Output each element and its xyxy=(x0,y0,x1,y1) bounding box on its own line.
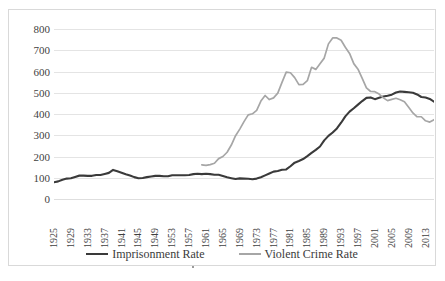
y-tick-label-700: 700 xyxy=(8,45,50,56)
x-tick-label-1969: 1969 xyxy=(235,228,245,248)
legend-swatch-icon xyxy=(86,253,108,255)
x-tick-label-1937: 1937 xyxy=(100,228,110,248)
x-tick-label-2013: 2013 xyxy=(421,228,431,248)
x-tick-label-1989: 1989 xyxy=(319,228,329,248)
x-tick-label-1929: 1929 xyxy=(66,228,76,248)
legend-label: Imprisonment Rate xyxy=(112,248,204,260)
y-tick-label-800: 800 xyxy=(8,24,50,35)
x-tick-label-1977: 1977 xyxy=(269,228,279,248)
x-tick-label-1965: 1965 xyxy=(218,228,228,248)
chart-container: 8007006005004003002001000 19251929193319… xyxy=(8,9,436,266)
y-tick-label-400: 400 xyxy=(8,109,50,120)
y-tick-label-200: 200 xyxy=(8,152,50,163)
series-lines xyxy=(54,29,434,199)
y-tick-label-100: 100 xyxy=(8,173,50,184)
gridline-0 xyxy=(54,199,434,200)
legend-item-1[interactable]: Violent Crime Rate xyxy=(239,248,358,260)
x-tick-label-2009: 2009 xyxy=(404,228,414,248)
y-tick-label-0: 0 xyxy=(8,194,50,205)
x-axis: 1925192919331937194119451949195319571961… xyxy=(54,202,434,248)
chart-legend: Imprisonment RateViolent Crime Rate xyxy=(9,248,435,260)
x-tick-label-1973: 1973 xyxy=(252,228,262,248)
x-tick-label-1949: 1949 xyxy=(150,228,160,248)
y-tick-label-300: 300 xyxy=(8,130,50,141)
x-tick-label-1993: 1993 xyxy=(336,228,346,248)
y-axis: 8007006005004003002001000 xyxy=(9,29,50,199)
plot-area xyxy=(54,29,434,199)
stray-mark xyxy=(192,266,194,268)
x-tick-label-1933: 1933 xyxy=(83,228,93,248)
legend-label: Violent Crime Rate xyxy=(265,248,358,260)
y-tick-label-600: 600 xyxy=(8,67,50,78)
x-tick-label-2001: 2001 xyxy=(370,228,380,248)
x-tick-label-1961: 1961 xyxy=(201,228,211,248)
y-tick-label-500: 500 xyxy=(8,88,50,99)
x-tick-label-2005: 2005 xyxy=(387,228,397,248)
series-line-violent-crime-rate xyxy=(202,38,434,165)
x-tick-label-1941: 1941 xyxy=(117,228,127,248)
series-line-imprisonment-rate xyxy=(54,91,434,182)
legend-swatch-icon xyxy=(239,253,261,255)
legend-item-0[interactable]: Imprisonment Rate xyxy=(86,248,204,260)
x-tick-label-1945: 1945 xyxy=(133,228,143,248)
x-tick-label-1997: 1997 xyxy=(353,228,363,248)
x-tick-label-1981: 1981 xyxy=(285,228,295,248)
x-tick-label-1985: 1985 xyxy=(302,228,312,248)
x-tick-label-1953: 1953 xyxy=(167,228,177,248)
x-tick-label-1925: 1925 xyxy=(49,228,59,248)
x-tick-label-1957: 1957 xyxy=(184,228,194,248)
